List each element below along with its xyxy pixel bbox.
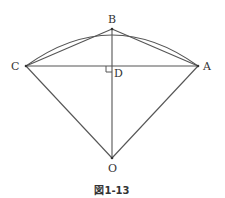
segment-ao xyxy=(112,66,198,158)
segment-cb xyxy=(26,29,112,66)
label-d: D xyxy=(114,67,123,80)
point-c-dot xyxy=(25,65,28,68)
point-o-dot xyxy=(111,157,114,160)
label-b: B xyxy=(108,13,116,26)
geometry-figure: B C A D O 図1-13 xyxy=(0,0,225,198)
segment-co xyxy=(26,66,112,158)
label-o: O xyxy=(108,162,117,175)
label-c: C xyxy=(11,60,19,73)
figure-caption: 図1-13 xyxy=(94,185,129,196)
right-angle-marker xyxy=(106,66,112,72)
point-b-dot xyxy=(111,28,114,31)
figure-canvas: B C A D O 図1-13 xyxy=(0,0,225,198)
segment-ba xyxy=(112,29,198,66)
label-a: A xyxy=(202,60,212,73)
point-a-dot xyxy=(197,65,200,68)
